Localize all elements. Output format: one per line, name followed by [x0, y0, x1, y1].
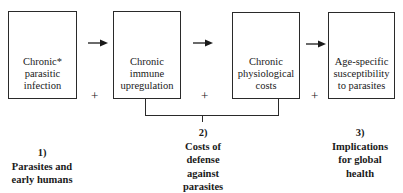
- box-line: infection: [9, 80, 76, 92]
- section-line: Parasites and: [2, 160, 82, 174]
- plus-icon: +: [201, 89, 208, 102]
- box-chronic-parasitic-infection: Chronic* parasitic infection: [8, 11, 77, 99]
- section-line: Implications: [320, 140, 400, 154]
- box-line: susceptibility: [329, 68, 394, 80]
- section-label-1: 1) Parasites and early humans: [2, 146, 82, 187]
- section-line: Costs of: [163, 140, 243, 154]
- section-line: health: [320, 167, 400, 181]
- bracket-center-tick: [202, 115, 203, 122]
- plus-icon: +: [91, 89, 98, 102]
- box-text: Chronic* parasitic infection: [9, 56, 76, 92]
- box-text: Chronic immune upregulation: [114, 56, 180, 92]
- box-chronic-immune-upregulation: Chronic immune upregulation: [113, 11, 181, 99]
- section-number: 2): [163, 126, 243, 140]
- section-number: 3): [320, 126, 400, 140]
- box-text: Age-specific susceptibility to parasites: [329, 56, 394, 92]
- section-line: defense: [163, 153, 243, 167]
- box-line: parasitic: [9, 68, 76, 80]
- bracket-left-stem: [145, 99, 146, 115]
- box-line: immune: [114, 68, 180, 80]
- plus-icon: +: [311, 89, 318, 102]
- box-line: Chronic*: [9, 56, 76, 68]
- section-label-3: 3) Implications for global health: [320, 126, 400, 180]
- box-age-specific-susceptibility: Age-specific susceptibility to parasites: [328, 12, 395, 99]
- box-line: Age-specific: [329, 56, 394, 68]
- box-line: Chronic: [114, 56, 180, 68]
- box-line: upregulation: [114, 80, 180, 92]
- box-line: costs: [233, 80, 299, 92]
- section-number: 1): [2, 146, 82, 160]
- bracket-right-stem: [278, 99, 279, 115]
- arrow-right-icon: [88, 39, 108, 47]
- bracket-horizontal: [145, 115, 279, 116]
- box-line: physiological: [233, 68, 299, 80]
- box-text: Chronic physiological costs: [233, 56, 299, 92]
- box-chronic-physiological-costs: Chronic physiological costs: [232, 12, 300, 99]
- section-line: against: [163, 167, 243, 181]
- section-line: parasites: [163, 180, 243, 193]
- section-label-2: 2) Costs of defense against parasites: [163, 126, 243, 193]
- section-line: for global: [320, 153, 400, 167]
- section-line: early humans: [2, 173, 82, 187]
- arrow-right-icon: [193, 39, 213, 47]
- box-line: to parasites: [329, 80, 394, 92]
- box-line: Chronic: [233, 56, 299, 68]
- arrow-right-icon: [306, 40, 326, 48]
